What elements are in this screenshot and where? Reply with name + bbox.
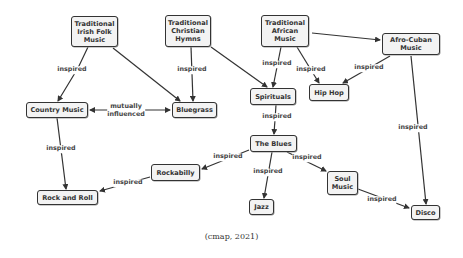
node-irish: Traditional Irish Folk Music <box>71 16 118 47</box>
link-label: inspired <box>296 66 325 74</box>
link-african-afrocuban <box>312 33 380 40</box>
link-label: inspired <box>46 145 75 153</box>
link-label: inspired <box>262 60 291 68</box>
link-label: inspired <box>177 66 206 74</box>
link-hymns-bluegrass <box>191 47 193 101</box>
link-label: inspired <box>398 124 427 132</box>
link-label: mutually influenced <box>107 103 145 118</box>
link-label: inspired <box>57 66 86 74</box>
node-blues: The Blues <box>250 135 297 152</box>
node-spirituals: Spirituals <box>250 88 296 105</box>
link-label: inspired <box>213 153 242 161</box>
node-hymns: Traditional Christian Hymns <box>165 15 211 47</box>
link-label: inspired <box>253 168 282 176</box>
node-hiphop: Hip Hop <box>309 84 349 101</box>
node-rockabilly: Rockabilly <box>151 164 200 181</box>
node-rockandroll: Rock and Roll <box>37 190 98 205</box>
link-label: inspired <box>354 64 383 72</box>
node-disco: Disco <box>411 205 440 220</box>
link-country-rockandroll <box>57 118 66 189</box>
link-label: inspired <box>262 113 291 121</box>
node-african: Traditional African Music <box>261 15 309 47</box>
link-irish-bluegrass <box>113 48 180 101</box>
figure-caption: (cmap, 2021) <box>0 232 463 241</box>
node-jazz: Jazz <box>249 199 274 215</box>
node-country: Country Music <box>26 102 88 118</box>
link-label: inspired <box>292 154 321 162</box>
link-hymns-spirituals <box>211 47 267 87</box>
link-label: inspired <box>113 179 142 187</box>
link-label: inspired <box>367 196 396 204</box>
link-irish-country <box>58 47 88 101</box>
node-bluegrass: Bluegrass <box>172 102 217 118</box>
concept-map: inspiredinspiredinspiredinspiredinspired… <box>0 0 463 258</box>
node-afrocuban: Afro-Cuban Music <box>382 33 440 55</box>
node-soul: Soul Music <box>327 171 358 195</box>
